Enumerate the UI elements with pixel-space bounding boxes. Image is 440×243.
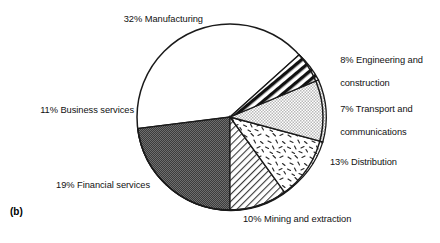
label-mining-extraction: 10% Mining and extraction <box>243 214 403 226</box>
panel-label: (b) <box>10 206 23 217</box>
label-business-services: 11% Business services <box>7 105 134 117</box>
label-transport-line2: communications <box>340 127 406 137</box>
label-distribution: 13% Distribution <box>330 157 438 169</box>
slice-financial-services[interactable] <box>138 117 230 210</box>
pie-chart-figure: 32% Manufacturing 8% Engineering and con… <box>0 0 440 243</box>
label-transport-line1: 7% Transport and <box>340 104 413 114</box>
label-financial-services: 19% Financial services <box>20 180 150 192</box>
label-engineering-line1: 8% Engineering and <box>340 55 423 65</box>
label-engineering-line2: construction <box>340 78 390 88</box>
label-manufacturing: 32% Manufacturing <box>58 14 203 26</box>
label-transport-communications: 7% Transport and communications <box>330 92 438 150</box>
pie-slices <box>138 55 326 211</box>
